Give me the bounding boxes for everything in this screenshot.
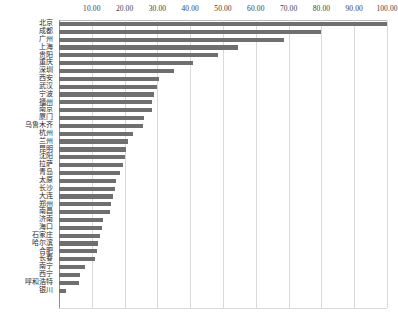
bar bbox=[59, 257, 95, 261]
bar bbox=[59, 210, 110, 214]
bar-track bbox=[59, 36, 387, 44]
bar-row: 呼和浩特 bbox=[0, 279, 396, 287]
bar bbox=[59, 61, 193, 65]
bar bbox=[59, 132, 133, 136]
bar-row: 沈阳 bbox=[0, 153, 396, 161]
bar-row: 哈尔滨 bbox=[0, 240, 396, 248]
bar bbox=[59, 45, 238, 49]
bar-row: 西安 bbox=[0, 75, 396, 83]
bar-row: 福州 bbox=[0, 98, 396, 106]
bar-track bbox=[59, 216, 387, 224]
bar-row: 太原 bbox=[0, 177, 396, 185]
bar-track bbox=[59, 51, 387, 59]
bar-track bbox=[59, 208, 387, 216]
bar bbox=[59, 226, 102, 230]
bar-row: 昆明 bbox=[0, 146, 396, 154]
bar-track bbox=[59, 75, 387, 83]
bar bbox=[59, 85, 157, 89]
bar-row: 南宁 bbox=[0, 263, 396, 271]
bar-track bbox=[59, 279, 387, 287]
x-tick-label-20: 20.00 bbox=[116, 4, 133, 13]
bar bbox=[59, 69, 174, 73]
bar bbox=[59, 218, 103, 222]
bar bbox=[59, 171, 120, 175]
x-tick-label-10: 10.00 bbox=[83, 4, 100, 13]
bar-row: 南昌 bbox=[0, 208, 396, 216]
plot-area: 北京成都广州上海贵阳重庆深圳西安武汉宁波福州南京厦门乌鲁木齐杭州兰州昆明沈阳拉萨… bbox=[0, 20, 396, 316]
bar bbox=[59, 147, 126, 151]
bar-track bbox=[59, 255, 387, 263]
bar-track bbox=[59, 263, 387, 271]
bar-rows: 北京成都广州上海贵阳重庆深圳西安武汉宁波福州南京厦门乌鲁木齐杭州兰州昆明沈阳拉萨… bbox=[0, 20, 396, 295]
bar-row: 宁波 bbox=[0, 91, 396, 99]
bar bbox=[59, 30, 321, 34]
bar-track bbox=[59, 67, 387, 75]
bar bbox=[59, 187, 115, 191]
bar-row: 西宁 bbox=[0, 271, 396, 279]
x-tick-label-30: 30.00 bbox=[149, 4, 166, 13]
plot-bottom-line bbox=[59, 308, 387, 309]
bar bbox=[59, 108, 152, 112]
bar-track bbox=[59, 224, 387, 232]
bar-track bbox=[59, 240, 387, 248]
bar bbox=[59, 163, 123, 167]
bar-track bbox=[59, 177, 387, 185]
bar-track bbox=[59, 146, 387, 154]
bar-row: 兰州 bbox=[0, 138, 396, 146]
x-tick-label-60: 60.00 bbox=[247, 4, 264, 13]
bar bbox=[59, 22, 387, 26]
bar-row: 广州 bbox=[0, 36, 396, 44]
bar-row: 深圳 bbox=[0, 67, 396, 75]
bar-track bbox=[59, 232, 387, 240]
bar-row: 长沙 bbox=[0, 185, 396, 193]
x-tick-label-70: 70.00 bbox=[280, 4, 297, 13]
bar-row: 青岛 bbox=[0, 169, 396, 177]
bar-row: 济南 bbox=[0, 216, 396, 224]
bar bbox=[59, 124, 143, 128]
bar bbox=[59, 273, 80, 277]
bar-track bbox=[59, 98, 387, 106]
bar-row: 厦门 bbox=[0, 114, 396, 122]
bar bbox=[59, 179, 116, 183]
bar-track bbox=[59, 200, 387, 208]
bar-track bbox=[59, 91, 387, 99]
bar-track bbox=[59, 130, 387, 138]
x-tick-label-40: 40.00 bbox=[182, 4, 199, 13]
bar-row: 武汉 bbox=[0, 83, 396, 91]
bar-row: 乌鲁木齐 bbox=[0, 122, 396, 130]
x-tick-label-80: 80.00 bbox=[313, 4, 330, 13]
bar-row: 银川 bbox=[0, 287, 396, 295]
bar-row: 成都 bbox=[0, 28, 396, 36]
bar-track bbox=[59, 44, 387, 52]
x-tick-label-100: 100.00 bbox=[376, 4, 397, 13]
bar-row: 石家庄 bbox=[0, 232, 396, 240]
bar bbox=[59, 202, 111, 206]
x-axis-top: 10.0020.0030.0040.0050.0060.0070.0080.00… bbox=[0, 0, 396, 20]
bar-track bbox=[59, 28, 387, 36]
x-tick-label-90: 90.00 bbox=[346, 4, 363, 13]
bar bbox=[59, 194, 113, 198]
bar-track bbox=[59, 193, 387, 201]
bar bbox=[59, 241, 98, 245]
bar-row: 南京 bbox=[0, 106, 396, 114]
bar bbox=[59, 92, 154, 96]
bar-row: 杭州 bbox=[0, 130, 396, 138]
bar-track bbox=[59, 287, 387, 295]
bar-row: 贵阳 bbox=[0, 51, 396, 59]
bar-row: 重庆 bbox=[0, 59, 396, 67]
bar bbox=[59, 77, 159, 81]
bar bbox=[59, 116, 144, 120]
bar bbox=[59, 249, 97, 253]
bar bbox=[59, 265, 85, 269]
bar-track bbox=[59, 59, 387, 67]
bar bbox=[59, 289, 66, 293]
bar bbox=[59, 139, 128, 143]
bar-row: 北京 bbox=[0, 20, 396, 28]
bar-track bbox=[59, 247, 387, 255]
bar-track bbox=[59, 169, 387, 177]
bar-track bbox=[59, 106, 387, 114]
bar-row: 拉萨 bbox=[0, 161, 396, 169]
bar-row: 郑州 bbox=[0, 200, 396, 208]
bar-track bbox=[59, 114, 387, 122]
x-tick-label-50: 50.00 bbox=[214, 4, 231, 13]
